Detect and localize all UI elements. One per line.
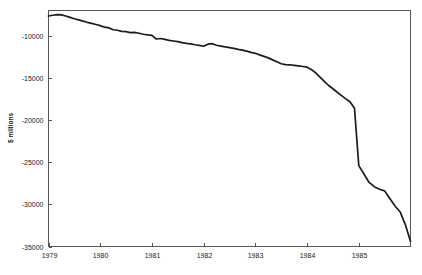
x-tick-label: 1983	[248, 252, 264, 259]
chart-figure: -10000-15000-20000-25000-30000-35000 197…	[0, 0, 422, 275]
x-tick-label: 1982	[197, 252, 213, 259]
y-tick-label: -15000	[22, 75, 44, 82]
y-tick-label: -30000	[22, 201, 44, 208]
x-tick-label: 1980	[93, 252, 109, 259]
y-axis-title: $ millions	[7, 113, 15, 143]
x-tick-label: 1979	[42, 252, 58, 259]
x-tick-label: 1985	[352, 252, 368, 259]
y-tick-label: -25000	[22, 159, 44, 166]
line-chart: -10000-15000-20000-25000-30000-35000 197…	[0, 0, 422, 275]
y-tick-label: -20000	[22, 117, 44, 124]
y-tick-label: -35000	[22, 244, 44, 251]
x-tick-label: 1984	[300, 252, 316, 259]
y-tick-label: -10000	[22, 33, 44, 40]
chart-background	[0, 0, 422, 275]
x-tick-label: 1981	[145, 252, 161, 259]
